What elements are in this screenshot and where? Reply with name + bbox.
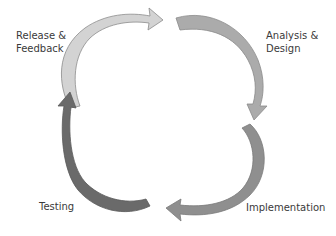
label-release-line2: Feedback xyxy=(16,42,66,55)
label-implementation: Implementation xyxy=(246,201,325,214)
release-feedback-arrow xyxy=(61,8,163,108)
testing-arrow xyxy=(58,92,150,212)
label-testing: Testing xyxy=(39,200,74,213)
label-testing-line1: Testing xyxy=(39,200,74,213)
sdlc-cycle-diagram: Release & Feedback Analysis & Design Imp… xyxy=(0,0,336,236)
analysis-design-arrow xyxy=(176,15,267,120)
label-analysis-line2: Design xyxy=(266,42,318,55)
label-implementation-line1: Implementation xyxy=(246,201,325,214)
label-release-feedback: Release & Feedback xyxy=(16,29,66,55)
label-analysis-design: Analysis & Design xyxy=(266,29,318,55)
label-release-line1: Release & xyxy=(16,29,66,42)
label-analysis-line1: Analysis & xyxy=(266,29,318,42)
